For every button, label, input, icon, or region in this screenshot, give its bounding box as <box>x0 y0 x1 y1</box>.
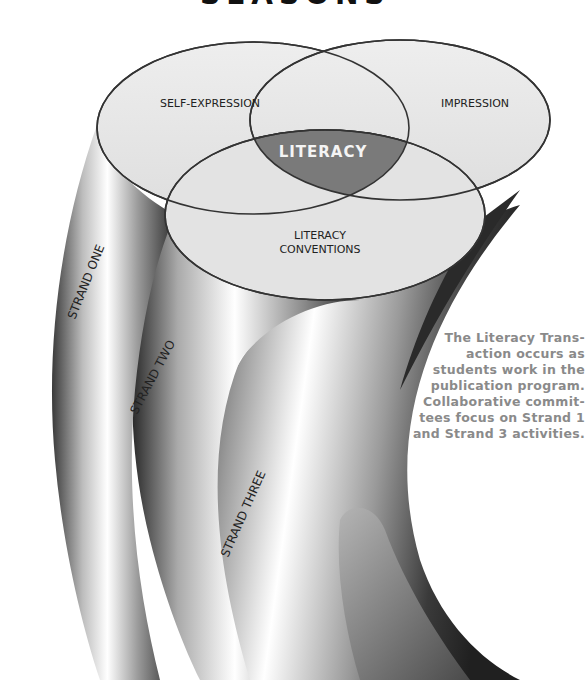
literacy-center-label: LITERACY <box>279 143 368 161</box>
caption-paragraph: The Literacy Trans- action occurs as stu… <box>400 330 585 442</box>
caption-line: The Literacy Trans- <box>400 330 585 346</box>
caption-line: and Strand 3 activities. <box>400 426 585 442</box>
literacy-conventions-label-line2: CONVENTIONS <box>279 243 360 256</box>
caption-line: action occurs as <box>400 346 585 362</box>
caption-line: publication program. <box>400 378 585 394</box>
self-expression-label: SELF-EXPRESSION <box>160 97 260 110</box>
caption-line: students work in the <box>400 362 585 378</box>
literacy-conventions-label-line1: LITERACY <box>294 229 346 242</box>
caption-line: Collaborative commit- <box>400 394 585 410</box>
impression-label: IMPRESSION <box>441 97 509 110</box>
caption-line: tees focus on Strand 1 <box>400 410 585 426</box>
